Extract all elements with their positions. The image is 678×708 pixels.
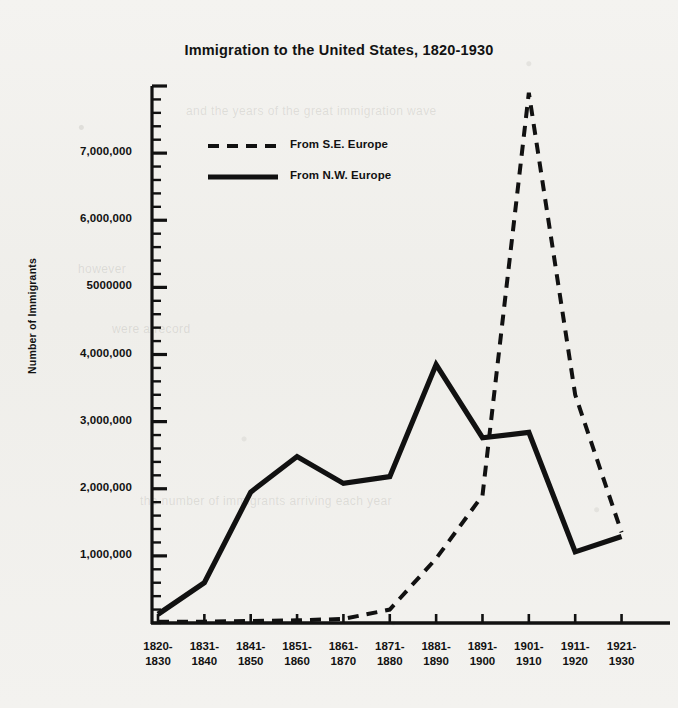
chart-plot-area — [0, 0, 678, 708]
chart-series — [158, 93, 622, 622]
chart-axes — [151, 86, 670, 624]
series-line — [158, 365, 622, 615]
legend-swatches — [208, 146, 278, 177]
